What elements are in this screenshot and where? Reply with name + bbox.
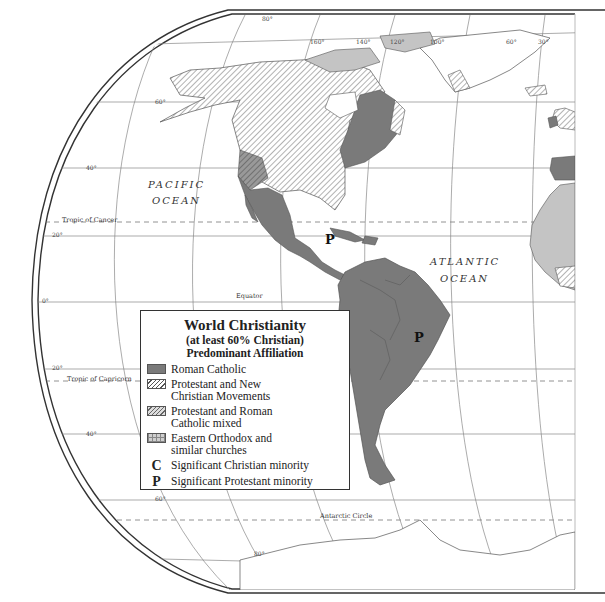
iceland (525, 85, 547, 96)
svg-text:40°: 40° (86, 164, 97, 171)
brazil-protestant-marker: P (414, 330, 424, 345)
svg-text:120°: 120° (390, 38, 404, 45)
svg-text:OCEAN: OCEAN (440, 273, 489, 284)
svg-text:30°: 30° (538, 38, 549, 45)
legend-item-protestant-minority: P Significant Protestant minority (147, 475, 343, 488)
c-symbol-icon: C (147, 459, 166, 472)
legend-item-protestant: Protestant and NewChristian Movements (147, 378, 343, 402)
antarctic-circle-label: Antarctic Circle (319, 512, 372, 520)
svg-text:80°: 80° (254, 550, 265, 557)
svg-text:20°: 20° (52, 364, 63, 371)
svg-text:140°: 140° (356, 38, 370, 45)
mixed-hatch-swatch-icon (147, 406, 166, 416)
svg-text:40°: 40° (86, 430, 97, 437)
legend-item-roman-catholic: Roman Catholic (147, 363, 343, 375)
legend-item-orthodox: Eastern Orthodox andsimilar churches (147, 432, 343, 456)
caribbean-protestant-marker: P (325, 232, 335, 247)
pacific-ocean-label: PACIFIC (147, 179, 205, 190)
iberia (550, 156, 575, 180)
legend-subtitle: (at least 60% Christian) (147, 334, 343, 347)
tropic-of-capricorn-label: Tropic of Capricorn (67, 375, 132, 383)
p-symbol-icon: P (147, 475, 166, 488)
svg-text:80°: 80° (262, 15, 273, 22)
svg-text:60°: 60° (155, 495, 166, 502)
world-christianity-map: PACIFIC OCEAN ATLANTIC OCEAN Tropic of C… (0, 0, 605, 602)
svg-text:60°: 60° (506, 38, 517, 45)
equator-label: Equator (236, 292, 263, 300)
svg-text:OCEAN: OCEAN (152, 195, 201, 206)
svg-text:160°: 160° (310, 38, 324, 45)
tropic-of-cancer-label: Tropic of Cancer (62, 216, 118, 224)
legend-item-christian-minority: C Significant Christian minority (147, 459, 343, 472)
svg-text:60°: 60° (155, 98, 166, 105)
legend-subtitle-2: Predominant Affiliation (147, 347, 343, 360)
legend: World Christianity (at least 60% Christi… (140, 310, 350, 490)
svg-text:0°: 0° (42, 297, 49, 304)
atlantic-ocean-label: ATLANTIC (429, 256, 500, 267)
antarctica (240, 520, 575, 590)
legend-title: World Christianity (147, 317, 343, 334)
protestant-hatch-swatch-icon (147, 379, 166, 389)
legend-item-mixed: Protestant and RomanCatholic mixed (147, 405, 343, 429)
svg-text:100°: 100° (430, 38, 444, 45)
south-america (338, 258, 450, 485)
svg-text:20°: 20° (52, 231, 63, 238)
roman-catholic-swatch-icon (147, 364, 166, 374)
orthodox-grid-swatch-icon (147, 433, 166, 443)
